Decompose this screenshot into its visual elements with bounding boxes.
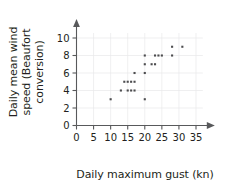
y-axis-title-line: speed (Beaufort (20, 28, 33, 116)
gridlines (77, 33, 203, 126)
data-point (110, 98, 112, 100)
x-tick-label: 30 (173, 132, 186, 143)
x-axis-ticks (77, 126, 197, 130)
x-tick-label: 5 (90, 132, 96, 143)
data-point (127, 81, 129, 83)
data-point (161, 54, 163, 56)
y-tick-label: 0 (63, 120, 69, 131)
x-tick-label: 35 (190, 132, 203, 143)
y-axis-ticks (73, 38, 77, 126)
x-axis-arrow (207, 122, 215, 129)
x-tick-label: 20 (138, 132, 151, 143)
x-axis-tick-labels: 05101520253035 (73, 132, 202, 143)
data-point (130, 81, 132, 83)
data-point (151, 63, 153, 65)
x-axis-title: Daily maximum gust (kn) (76, 168, 213, 181)
y-tick-label: 4 (63, 85, 69, 96)
data-point (181, 46, 183, 48)
data-point (144, 72, 146, 74)
y-tick-label: 8 (63, 50, 69, 61)
y-axis-title-line: conversion) (33, 40, 46, 103)
y-axis-arrow (73, 19, 80, 27)
data-point (154, 54, 156, 56)
data-point (130, 89, 132, 91)
data-point (133, 89, 135, 91)
chart-canvas: 05101520253035 0246810 Daily maximum gus… (0, 0, 235, 184)
y-axis-title: Daily mean windspeed (Beaufortconversion… (7, 27, 45, 118)
data-point (120, 89, 122, 91)
x-tick-label: 25 (155, 132, 168, 143)
data-point (123, 81, 125, 83)
data-point (154, 63, 156, 65)
x-tick-label: 10 (104, 132, 117, 143)
y-tick-label: 10 (57, 33, 70, 44)
y-tick-label: 6 (63, 68, 69, 79)
data-point (144, 98, 146, 100)
y-axis-tick-labels: 0246810 (57, 33, 70, 132)
data-point (133, 72, 135, 74)
data-point (127, 89, 129, 91)
y-axis-title-line: Daily mean wind (7, 27, 20, 118)
x-tick-label: 15 (121, 132, 134, 143)
data-point (171, 54, 173, 56)
data-point (171, 46, 173, 48)
data-point (157, 54, 159, 56)
scatter-chart-figure: 05101520253035 0246810 Daily maximum gus… (0, 0, 235, 184)
data-point (144, 63, 146, 65)
data-point (144, 54, 146, 56)
y-tick-label: 2 (63, 103, 69, 114)
data-point (133, 81, 135, 83)
x-tick-label: 0 (73, 132, 79, 143)
